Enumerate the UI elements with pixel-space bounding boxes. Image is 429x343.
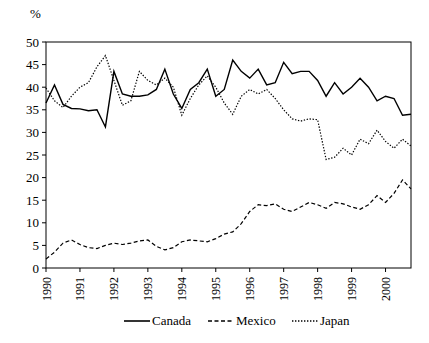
y-tick-label: 35: [26, 102, 39, 117]
y-tick-label: 30: [26, 125, 39, 140]
series-line-japan: [46, 56, 411, 160]
legend-label-canada: Canada: [152, 313, 191, 328]
y-tick-label: 25: [26, 148, 39, 163]
y-tick-label: 15: [26, 193, 39, 208]
y-tick-label: 10: [26, 215, 39, 230]
y-tick-label: 50: [26, 35, 39, 50]
series-line-mexico: [46, 180, 411, 259]
y-axis-tick-labels: 05101520253035404550: [26, 35, 39, 276]
y-tick-label: 45: [26, 57, 39, 72]
x-tick-label: 1997: [277, 277, 291, 301]
y-axis-ticks: [42, 42, 46, 268]
x-tick-label: 1993: [141, 277, 155, 301]
legend-label-japan: Japan: [320, 313, 350, 328]
x-axis-ticks: [46, 268, 386, 272]
x-tick-label: 2000: [379, 277, 393, 301]
x-tick-label: 1999: [345, 277, 359, 301]
y-tick-label: 20: [26, 170, 39, 185]
y-tick-label: 40: [26, 80, 39, 95]
x-tick-label: 1996: [243, 277, 257, 301]
x-axis-tick-labels: 1990199119921993199419951996199719981999…: [40, 277, 394, 301]
x-tick-label: 1994: [175, 277, 189, 301]
legend-label-mexico: Mexico: [236, 313, 276, 328]
x-tick-label: 1991: [73, 277, 87, 301]
y-tick-label: 0: [33, 261, 40, 276]
line-chart: % 05101520253035404550 19901991199219931…: [0, 0, 429, 343]
series-line-canada: [46, 60, 411, 127]
x-tick-label: 1990: [40, 277, 54, 301]
chart-legend: CanadaMexicoJapan: [124, 313, 350, 328]
x-tick-label: 1995: [209, 277, 223, 301]
chart-container: % 05101520253035404550 19901991199219931…: [0, 0, 429, 343]
x-tick-label: 1992: [107, 277, 121, 301]
x-tick-label: 1998: [311, 277, 325, 301]
series-group: [46, 56, 411, 259]
y-tick-label: 5: [33, 238, 40, 253]
y-axis-unit-label: %: [30, 6, 41, 21]
